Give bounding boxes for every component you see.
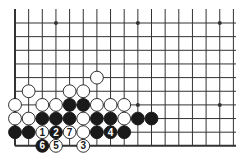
- white-stone: [50, 98, 63, 111]
- black-stone: [63, 98, 76, 111]
- star-point: [136, 21, 140, 25]
- white-stone: [118, 112, 131, 125]
- white-stone: [90, 71, 103, 84]
- black-stone: [118, 126, 131, 139]
- white-stone: [9, 112, 22, 125]
- black-stone: [22, 126, 35, 139]
- white-stone: [22, 112, 35, 125]
- move-number-label: 4: [108, 127, 114, 138]
- black-stone: [90, 112, 103, 125]
- move-number-label: 7: [67, 127, 73, 138]
- white-stone: 5: [50, 139, 63, 152]
- white-stone: 1: [36, 126, 49, 139]
- white-stone: [22, 85, 35, 98]
- star-point: [136, 103, 140, 107]
- move-number-label: 6: [40, 140, 46, 151]
- black-stone: [104, 112, 117, 125]
- move-number-label: 3: [80, 140, 86, 151]
- white-stone: [36, 98, 49, 111]
- white-stone: [63, 85, 76, 98]
- white-stone: 7: [63, 126, 76, 139]
- black-stone: [63, 112, 76, 125]
- black-stone: [90, 126, 103, 139]
- board-grid: [15, 9, 236, 146]
- move-number-label: 1: [40, 127, 46, 138]
- star-point: [218, 103, 222, 107]
- white-stone: 3: [77, 139, 90, 152]
- black-stone: [131, 112, 144, 125]
- white-stone: [77, 85, 90, 98]
- white-stone: [90, 98, 103, 111]
- black-stone: [77, 98, 90, 111]
- black-stone: [36, 112, 49, 125]
- black-stone: [50, 112, 63, 125]
- black-stone: 6: [36, 139, 49, 152]
- black-stone: [9, 126, 22, 139]
- white-stone: [118, 98, 131, 111]
- go-board: 1274653: [0, 0, 240, 165]
- black-stone: 4: [104, 126, 117, 139]
- star-point: [54, 21, 58, 25]
- white-stone: [9, 98, 22, 111]
- black-stone: [145, 112, 158, 125]
- move-number-label: 2: [53, 127, 59, 138]
- white-stone: [77, 112, 90, 125]
- white-stone: [77, 126, 90, 139]
- black-stone: 2: [50, 126, 63, 139]
- move-number-label: 5: [53, 140, 59, 151]
- white-stone: [104, 98, 117, 111]
- star-point: [218, 21, 222, 25]
